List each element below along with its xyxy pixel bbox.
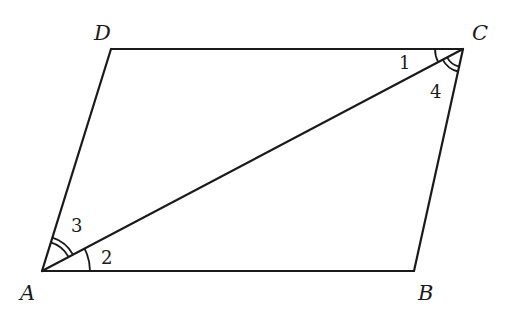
angle-label-2: 2 (101, 247, 112, 268)
vertex-label-b: B (417, 281, 433, 305)
angle-label-1: 1 (399, 52, 410, 73)
angle-3-arc-outer (52, 238, 73, 255)
angle-2-arc (85, 249, 91, 271)
vertex-label-d: D (93, 21, 111, 45)
angle-label-3: 3 (71, 215, 82, 236)
diagonal-ac (42, 49, 463, 271)
vertex-label-a: A (18, 281, 35, 305)
angle-label-4: 4 (430, 81, 441, 102)
parallelogram-diagram: A B C D 1 2 3 4 (0, 0, 513, 310)
edge-da (42, 49, 111, 271)
vertex-label-c: C (472, 21, 488, 45)
angle-4-arc-inner (447, 57, 459, 66)
angle-1-arc (435, 49, 438, 62)
